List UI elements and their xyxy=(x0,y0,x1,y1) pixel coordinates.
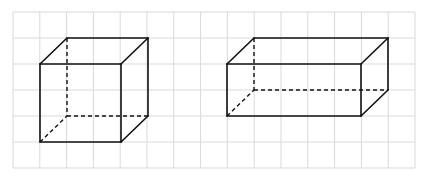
hidden-edge xyxy=(227,90,254,116)
hidden-edge xyxy=(40,116,67,142)
diagram-canvas xyxy=(0,0,427,176)
visible-edge xyxy=(361,38,388,64)
visible-edge xyxy=(361,90,388,116)
visible-edge xyxy=(121,116,148,142)
visible-edge xyxy=(227,38,254,64)
visible-edge xyxy=(40,38,67,64)
visible-edge xyxy=(121,38,148,64)
